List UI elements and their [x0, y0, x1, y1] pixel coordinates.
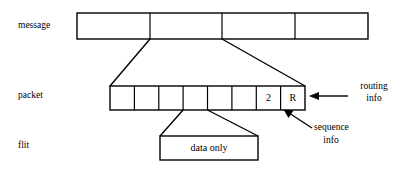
routing-info-label-line1: routing	[360, 81, 388, 91]
diagram-svg: message packet flit	[0, 0, 405, 174]
row-label-packet: packet	[18, 90, 43, 100]
connector-right-packet-flit	[208, 110, 259, 136]
diagram-canvas: message packet flit	[0, 0, 405, 174]
routing-info-label-line2: info	[366, 93, 382, 103]
message-bar	[77, 13, 368, 39]
sequence-info-arrow-head-icon	[284, 110, 294, 119]
row-label-message: message	[18, 20, 50, 30]
packet-to-flit-connectors	[160, 110, 258, 136]
packet-cell-7-sequence-label: 2	[266, 92, 271, 103]
connector-right-message-packet	[222, 39, 305, 86]
packet-cell-8-routing-label: R	[289, 92, 296, 103]
connector-left-packet-flit	[160, 110, 183, 136]
routing-info-annotation: routing info	[309, 81, 388, 103]
sequence-info-label-line1: sequence	[314, 122, 349, 132]
flit-box-label: data only	[191, 142, 228, 153]
sequence-info-label-line2: info	[323, 135, 339, 145]
packet-bar: 2 R	[110, 86, 305, 110]
flit-box: data only	[160, 136, 258, 160]
sequence-info-annotation: sequence info	[284, 110, 349, 146]
routing-info-arrow-head-icon	[309, 92, 319, 100]
connector-left-message-packet	[110, 39, 150, 86]
message-to-packet-connectors	[110, 39, 305, 86]
row-label-flit: flit	[18, 140, 29, 150]
sequence-info-arrow-shaft	[289, 113, 312, 128]
